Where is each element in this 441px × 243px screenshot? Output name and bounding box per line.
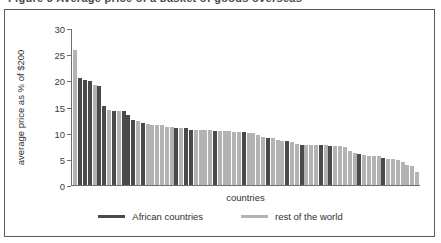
bar bbox=[93, 85, 97, 185]
bar bbox=[112, 111, 116, 185]
y-axis-tick-label: 15 bbox=[54, 102, 65, 113]
x-axis-title: countries bbox=[71, 192, 420, 203]
bar bbox=[362, 155, 366, 185]
bar bbox=[83, 80, 87, 185]
bar bbox=[141, 123, 145, 185]
bar bbox=[415, 172, 419, 185]
bar bbox=[131, 120, 135, 185]
bar bbox=[300, 145, 304, 185]
legend-label-rest-of-world: rest of the world bbox=[275, 211, 343, 222]
bar bbox=[381, 158, 385, 185]
bar bbox=[328, 146, 332, 185]
bar bbox=[343, 147, 347, 185]
bar bbox=[146, 124, 150, 185]
bar bbox=[189, 130, 193, 185]
bar bbox=[386, 159, 390, 185]
bar bbox=[78, 78, 82, 185]
legend-swatch-rest-of-world-icon bbox=[241, 215, 268, 217]
bar bbox=[410, 166, 414, 185]
bar bbox=[88, 81, 92, 185]
bar bbox=[333, 146, 337, 185]
y-axis-title-label: average price as % of $200 bbox=[16, 50, 27, 166]
bar bbox=[285, 141, 289, 185]
bar bbox=[319, 145, 323, 185]
bar bbox=[213, 131, 217, 185]
bar bbox=[232, 132, 236, 185]
y-axis-title: average price as % of $200 bbox=[14, 29, 28, 186]
legend-item-african: African countries bbox=[98, 211, 203, 222]
bar bbox=[237, 132, 241, 185]
bar bbox=[266, 138, 270, 185]
chart-legend: African countries rest of the world bbox=[5, 211, 436, 222]
bar bbox=[223, 131, 227, 185]
legend-item-rest-of-world: rest of the world bbox=[241, 211, 343, 222]
bar bbox=[256, 135, 260, 185]
figure-title: Figure 3 Average price of a basket of go… bbox=[8, 0, 302, 4]
bar bbox=[391, 159, 395, 185]
bar bbox=[396, 160, 400, 185]
bar bbox=[194, 130, 198, 185]
bar bbox=[372, 156, 376, 185]
bar bbox=[405, 165, 409, 185]
figure-title-strip: Figure 3 Average price of a basket of go… bbox=[0, 0, 441, 7]
bar bbox=[309, 145, 313, 185]
bar bbox=[208, 130, 212, 185]
bar bbox=[184, 128, 188, 185]
bar bbox=[218, 131, 222, 185]
bar bbox=[122, 111, 126, 185]
y-axis-tick-mark bbox=[67, 29, 71, 30]
y-axis-tick-mark bbox=[67, 186, 71, 187]
bar bbox=[117, 111, 121, 185]
bar bbox=[271, 138, 275, 185]
bar bbox=[261, 137, 265, 185]
plot-area: 051015202530 bbox=[71, 29, 420, 186]
y-axis-tick-mark bbox=[67, 55, 71, 56]
bar bbox=[203, 130, 207, 185]
bar bbox=[136, 121, 140, 185]
bar bbox=[247, 133, 251, 185]
bar bbox=[179, 128, 183, 185]
y-axis-tick-label: 0 bbox=[60, 181, 65, 192]
bar bbox=[353, 153, 357, 185]
bar bbox=[324, 145, 328, 185]
bar bbox=[377, 156, 381, 185]
y-axis-tick-mark bbox=[67, 134, 71, 135]
bar bbox=[348, 151, 352, 185]
y-axis-tick-mark bbox=[67, 81, 71, 82]
bar bbox=[73, 50, 77, 185]
bar bbox=[251, 133, 255, 185]
bar bbox=[295, 144, 299, 185]
bar bbox=[199, 130, 203, 185]
bar bbox=[338, 146, 342, 185]
bar bbox=[150, 125, 154, 185]
bar bbox=[227, 131, 231, 185]
bar bbox=[242, 132, 246, 185]
bar bbox=[280, 141, 284, 185]
y-axis-tick-label: 25 bbox=[54, 50, 65, 61]
bar bbox=[165, 127, 169, 185]
bar bbox=[276, 140, 280, 185]
bar bbox=[126, 115, 130, 185]
y-axis-tick-label: 20 bbox=[54, 76, 65, 87]
bar bbox=[174, 128, 178, 185]
bar bbox=[367, 156, 371, 185]
y-axis-tick-label: 10 bbox=[54, 128, 65, 139]
bar bbox=[401, 162, 405, 185]
bar bbox=[97, 86, 101, 185]
y-axis-tick-mark bbox=[67, 108, 71, 109]
bar bbox=[107, 110, 111, 185]
bar bbox=[314, 145, 318, 185]
bar bbox=[357, 154, 361, 185]
y-axis-line bbox=[71, 29, 72, 186]
figure-frame: average price as % of $200 051015202530 … bbox=[4, 9, 435, 237]
y-axis-tick-mark bbox=[67, 160, 71, 161]
bar-series-group bbox=[73, 29, 420, 185]
bar bbox=[170, 127, 174, 185]
legend-swatch-african-icon bbox=[98, 215, 125, 217]
legend-label-african: African countries bbox=[132, 211, 203, 222]
bar bbox=[102, 106, 106, 185]
bar bbox=[160, 125, 164, 185]
y-axis-tick-label: 5 bbox=[60, 154, 65, 165]
bar bbox=[155, 125, 159, 185]
x-axis-line bbox=[71, 185, 420, 186]
